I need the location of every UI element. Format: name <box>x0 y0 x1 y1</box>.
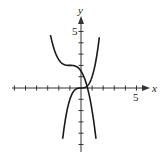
y-axis-arrow-icon <box>78 16 84 24</box>
cubic-graph: x y 5 5 <box>0 0 164 166</box>
y-tick-label-5: 5 <box>72 25 78 37</box>
x-tick-label-5: 5 <box>133 91 139 103</box>
curve-decreasing-cubic <box>50 35 96 139</box>
x-axis-arrow-icon <box>142 85 150 91</box>
y-axis-label: y <box>77 4 83 16</box>
x-axis-label: x <box>151 82 157 94</box>
